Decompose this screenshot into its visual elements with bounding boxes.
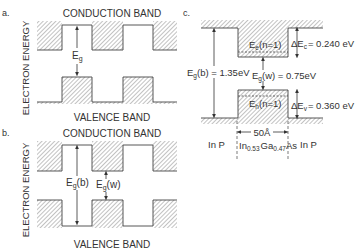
- panel-c-electron-level-label: Ee(n=1): [249, 39, 281, 51]
- panel-b-conduction-band: [37, 141, 177, 171]
- panel-a-valence-band: [37, 77, 177, 104]
- panel-a: a. CONDUCTION BAND VALENCE BAND ELECTRON…: [2, 8, 177, 123]
- panel-b-conduction-title: CONDUCTION BAND: [63, 128, 161, 139]
- panel-c: c. Ee(n=1) Eh(n=1) Eg(b) = 1.35eV Eg(w) …: [183, 8, 355, 159]
- panel-a-label: a.: [2, 8, 10, 18]
- panel-a-valence-title: VALENCE BAND: [74, 112, 151, 123]
- band-diagram-figure: a. CONDUCTION BAND VALENCE BAND ELECTRON…: [0, 0, 356, 252]
- panel-b-valence-band: [37, 200, 177, 228]
- panel-c-conduction-offset-label: ΔEc= 0.240 eV: [291, 38, 355, 50]
- panel-b: b. CONDUCTION BAND VALENCE BAND ELECTRON…: [2, 128, 177, 250]
- panel-c-well-gap-label: Eg(w) = 0.75eV: [252, 70, 317, 83]
- panel-a-conduction-title: CONDUCTION BAND: [63, 8, 161, 19]
- panel-a-conduction-band: [37, 21, 177, 50]
- panel-c-label: c.: [183, 8, 190, 18]
- panel-c-well-material: In0.53Ga0.47As: [239, 140, 297, 152]
- panel-b-label: b.: [2, 128, 10, 138]
- panel-c-barrier-gap-label: Eg(b) = 1.35eV: [187, 67, 250, 80]
- panel-c-valence-offset-label: ΔEv= 0.360 eV: [291, 100, 355, 112]
- panel-a-axis-label: ELECTRON ENERGY: [20, 20, 31, 115]
- panel-c-well-width-label: 50Å: [254, 127, 272, 138]
- panel-b-valence-title: VALENCE BAND: [74, 239, 151, 250]
- panel-c-left-material: In P: [208, 139, 225, 150]
- panel-c-hole-level-label: Eh(n=1): [249, 98, 281, 110]
- panel-b-axis-label: ELECTRON ENERGY: [20, 142, 31, 237]
- panel-c-right-material: In P: [300, 139, 317, 150]
